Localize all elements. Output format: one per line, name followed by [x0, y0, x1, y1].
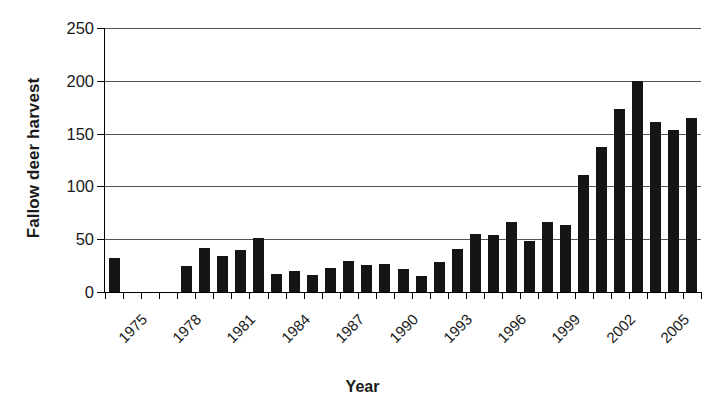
y-tick-label-150: 150: [48, 126, 94, 142]
x-tick-mark-3: [159, 292, 160, 299]
gridline-200: [105, 81, 701, 82]
x-tick-label-1999: 1999: [548, 310, 584, 346]
x-tick-label-1984: 1984: [277, 310, 313, 346]
x-tick-mark-7: [231, 292, 232, 299]
x-tick-mark-16: [394, 292, 395, 299]
y-tick-label-50: 50: [48, 231, 94, 247]
x-tick-label-2002: 2002: [602, 310, 638, 346]
y-tick-mark-200: [97, 81, 104, 82]
bar-1999: [542, 222, 553, 292]
x-tick-label-1987: 1987: [332, 310, 368, 346]
x-tick-mark-10: [286, 292, 287, 299]
x-tick-mark-21: [484, 292, 485, 299]
bar-2003: [614, 109, 625, 292]
x-tick-label-1993: 1993: [440, 310, 476, 346]
y-tick-label-100: 100: [48, 178, 94, 194]
x-tick-mark-1: [123, 292, 124, 299]
x-tick-mark-29: [629, 292, 630, 299]
x-tick-mark-6: [213, 292, 214, 299]
x-tick-mark-4: [177, 292, 178, 299]
x-tick-label-1990: 1990: [386, 310, 422, 346]
x-tick-mark-24: [538, 292, 539, 299]
x-tick-mark-8: [249, 292, 250, 299]
x-tick-label-1981: 1981: [223, 310, 259, 346]
bar-1987: [325, 268, 336, 292]
bar-chart-figure: Fallow deer harvest 050100150200250 1975…: [0, 0, 725, 405]
bar-2001: [578, 175, 589, 292]
bar-1982: [235, 250, 246, 292]
x-tick-mark-13: [340, 292, 341, 299]
y-tick-mark-100: [97, 186, 104, 187]
x-tick-mark-22: [502, 292, 503, 299]
bar-1993: [434, 262, 445, 292]
bar-2005: [650, 122, 661, 292]
bar-1990: [379, 264, 390, 293]
bar-2006: [668, 130, 679, 292]
x-tick-mark-25: [557, 292, 558, 299]
y-tick-mark-250: [97, 28, 104, 29]
bar-1984: [271, 274, 282, 292]
x-tick-mark-32: [683, 292, 684, 299]
bar-1998: [524, 241, 535, 292]
x-tick-mark-28: [611, 292, 612, 299]
x-tick-mark-31: [665, 292, 666, 299]
bar-1991: [398, 269, 409, 292]
x-tick-mark-18: [430, 292, 431, 299]
x-tick-mark-5: [195, 292, 196, 299]
x-tick-mark-30: [647, 292, 648, 299]
gridline-250: [105, 28, 701, 29]
x-axis-title: Year: [0, 378, 725, 396]
x-tick-mark-23: [520, 292, 521, 299]
bar-2002: [596, 147, 607, 292]
x-tick-mark-12: [322, 292, 323, 299]
x-tick-mark-17: [412, 292, 413, 299]
bar-1980: [199, 248, 210, 292]
plot-area: [104, 28, 701, 293]
bar-1992: [416, 276, 427, 292]
y-axis-title: Fallow deer harvest: [24, 28, 44, 288]
x-tick-mark-33: [701, 292, 702, 299]
bar-2000: [560, 225, 571, 292]
bar-1979: [181, 266, 192, 292]
bar-1975: [109, 258, 120, 292]
x-tick-mark-2: [141, 292, 142, 299]
gridline-50: [105, 239, 701, 240]
bar-1995: [470, 234, 481, 292]
x-tick-mark-27: [593, 292, 594, 299]
x-tick-mark-14: [358, 292, 359, 299]
bar-1981: [217, 256, 228, 292]
x-tick-mark-15: [376, 292, 377, 299]
bar-1994: [452, 249, 463, 292]
y-tick-mark-0: [97, 292, 104, 293]
bar-1988: [343, 261, 354, 292]
gridline-100: [105, 186, 701, 187]
bar-2007: [686, 118, 697, 292]
x-tick-label-1996: 1996: [494, 310, 530, 346]
y-tick-mark-150: [97, 134, 104, 135]
bar-1986: [307, 275, 318, 292]
y-tick-label-0: 0: [48, 284, 94, 300]
gridline-150: [105, 134, 701, 135]
x-tick-mark-0: [105, 292, 106, 299]
x-tick-label-1975: 1975: [115, 310, 151, 346]
bar-1997: [506, 222, 517, 292]
x-tick-mark-20: [466, 292, 467, 299]
x-tick-mark-19: [448, 292, 449, 299]
x-tick-mark-11: [304, 292, 305, 299]
bar-1989: [361, 265, 372, 292]
x-tick-label-1978: 1978: [169, 310, 205, 346]
y-tick-mark-50: [97, 239, 104, 240]
bar-1983: [253, 238, 264, 292]
x-tick-mark-9: [268, 292, 269, 299]
x-tick-mark-26: [575, 292, 576, 299]
bar-1996: [488, 235, 499, 292]
bar-2004: [632, 81, 643, 292]
y-tick-label-250: 250: [48, 20, 94, 36]
bar-1985: [289, 271, 300, 292]
x-tick-label-2005: 2005: [657, 310, 693, 346]
y-tick-label-200: 200: [48, 73, 94, 89]
